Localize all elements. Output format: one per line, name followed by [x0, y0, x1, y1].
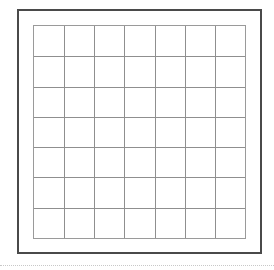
grid-column-line: [185, 26, 186, 238]
grid-column-line: [64, 26, 65, 238]
grid-row-line: [34, 177, 245, 178]
grid-column-line: [94, 26, 95, 238]
footer-divider: [0, 265, 274, 266]
grid-row-line: [34, 117, 245, 118]
grid-column-line: [155, 26, 156, 238]
grid-row-line: [34, 56, 245, 57]
grid-row-line: [34, 208, 245, 209]
grid-area: [33, 25, 246, 239]
grid-column-line: [124, 26, 125, 238]
grid-canvas: [0, 0, 274, 270]
grid-row-line: [34, 87, 245, 88]
grid-column-line: [215, 26, 216, 238]
grid-row-line: [34, 147, 245, 148]
